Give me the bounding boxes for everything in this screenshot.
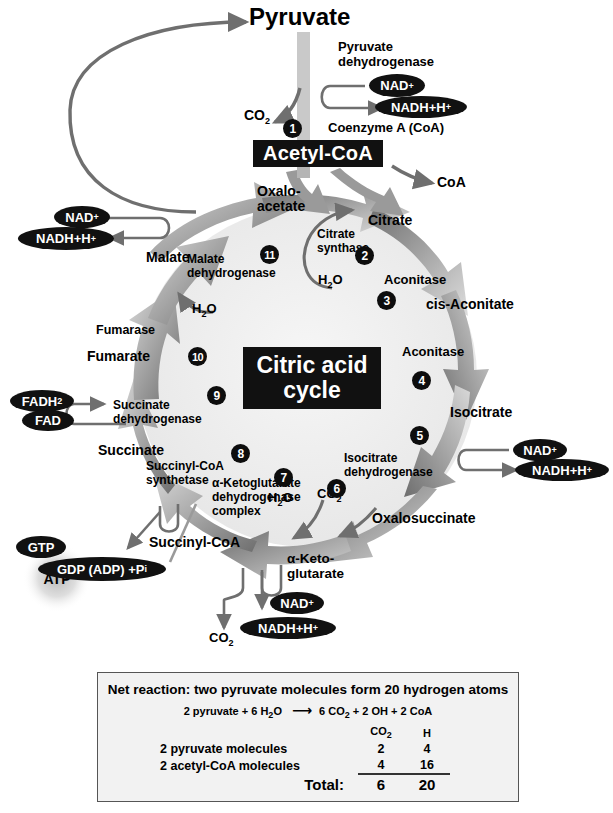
step-10-fumarase[interactable]: 10 xyxy=(188,347,207,366)
chip-nadh-left-text: NADH+H xyxy=(36,231,91,246)
chip-fad-text: FAD xyxy=(35,413,61,428)
net-reaction-box: Net reaction: two pyruvate molecules for… xyxy=(97,672,519,802)
step-9-succinate-dehydrogenase[interactable]: 9 xyxy=(207,386,226,405)
step-6-decarboxylation[interactable]: 6 xyxy=(327,479,346,498)
chip-nadh-top-text: NADH+H xyxy=(391,100,446,115)
label-succinyl-coa-synthetase-1: Succinyl-CoA xyxy=(146,460,224,473)
step-7-number: 7 xyxy=(280,471,286,485)
center-title-plate: Citric acid cycle xyxy=(243,347,381,409)
row-0-name: 2 pyruvate molecules xyxy=(160,741,358,757)
step-9-number: 9 xyxy=(213,389,219,403)
h2o-citrate-o: O xyxy=(332,272,342,287)
step-6-number: 6 xyxy=(333,482,339,496)
chip-nadh-top: NADH+H+ xyxy=(375,96,467,118)
label-malate: Malate xyxy=(146,250,190,265)
chip-nad-bottom-text: NAD xyxy=(280,596,308,611)
chip-fadh2-sub: 2 xyxy=(57,396,62,406)
row-1-name: 2 acetyl-CoA molecules xyxy=(160,757,358,774)
label-coenzyme-a: Coenzyme A (CoA) xyxy=(328,121,444,135)
step-5-number: 5 xyxy=(416,429,422,443)
label-cis-aconitate: cis-Aconitate xyxy=(426,297,514,312)
chip-nadh-left: NADH+H+ xyxy=(18,227,114,250)
step-11-malate-dehydrogenase[interactable]: 11 xyxy=(260,245,279,264)
eq-left-tail: O xyxy=(273,705,282,717)
co2-bottom-sub: 2 xyxy=(229,638,234,648)
h2o-fumarase-h: H xyxy=(192,301,201,316)
label-pyruvate: Pyruvate xyxy=(249,4,350,30)
chip-nadh-left-plus: + xyxy=(91,234,96,244)
label-pyruvate-dehydrogenase-2: dehydrogenase xyxy=(338,55,434,69)
label-succinate-dehydrogenase-1: Succinate xyxy=(113,399,170,412)
step-8-number: 8 xyxy=(237,447,243,461)
net-reaction-table: CO2 H 2 pyruvate molecules 2 4 2 acetyl-… xyxy=(160,724,450,794)
row-1-co2: 4 xyxy=(358,757,404,774)
step-8-succinyl-coa-synthetase[interactable]: 8 xyxy=(231,444,250,463)
header-h: H xyxy=(404,724,450,741)
label-isocitrate-dehydrogenase-1: Isocitrate xyxy=(344,452,397,465)
chip-nadh-right-plus: + xyxy=(587,465,592,475)
step-2-citrate-synthase[interactable]: 2 xyxy=(355,246,374,265)
step-7-akg-dehydrogenase[interactable]: 7 xyxy=(274,468,293,487)
chip-nad-right: NAD+ xyxy=(513,439,567,461)
label-coa-out: CoA xyxy=(437,175,466,190)
chip-nad-left-text: NAD xyxy=(65,210,93,225)
chip-nadh-bottom-text: NADH+H xyxy=(258,621,313,636)
chip-nad-right-text: NAD xyxy=(523,443,551,458)
eq-arrow: ⟶ xyxy=(285,702,319,718)
center-title-line1: Citric acid xyxy=(256,353,367,378)
net-reaction-equation: 2 pyruvate + 6 H2O ⟶6 CO2 + 2 OH + 2 CoA xyxy=(98,702,518,720)
step-10-number: 10 xyxy=(192,351,203,363)
chip-nadh-right: NADH+H+ xyxy=(515,459,609,481)
label-aconitase-b: Aconitase xyxy=(402,345,464,359)
label-pyruvate-dehydrogenase-1: Pyruvate xyxy=(338,40,393,54)
chip-nad-left: NAD+ xyxy=(54,206,110,228)
label-aconitase-a: Aconitase xyxy=(384,273,446,287)
label-alpha-ketoglutarate-2: glutarate xyxy=(287,567,344,582)
table-total-row: Total: 6 20 xyxy=(160,774,450,794)
eq-left: 2 pyruvate + 6 H xyxy=(184,705,269,717)
total-label: Total: xyxy=(160,774,358,794)
chip-fadh2-text: FADH xyxy=(22,394,57,409)
table-header-row: CO2 H xyxy=(160,724,450,741)
label-oxalosuccinate: Oxalosuccinate xyxy=(372,511,476,526)
row-0-co2: 2 xyxy=(358,741,404,757)
label-succinyl-coa: Succinyl-CoA xyxy=(149,535,240,550)
eq-right: 6 CO xyxy=(319,705,345,717)
label-fumarase: Fumarase xyxy=(96,324,155,338)
step-2-number: 2 xyxy=(361,249,367,263)
chip-nad-top-text: NAD xyxy=(380,78,408,93)
step-5-isocitrate-dehydrogenase[interactable]: 5 xyxy=(410,426,429,445)
label-succinyl-coa-synthetase-2: synthetase xyxy=(146,474,209,487)
step-1-number: 1 xyxy=(289,122,295,136)
co2-top-text: CO xyxy=(244,107,265,123)
label-citrate-synthase-1: Citrate xyxy=(317,228,355,241)
label-succinate: Succinate xyxy=(98,443,164,458)
chip-fad: FAD xyxy=(22,410,74,431)
chip-gdp-text: GDP (ADP) +P xyxy=(57,562,145,577)
total-co2: 6 xyxy=(358,774,404,794)
eq-right-tail: + 2 OH + 2 CoA xyxy=(350,705,433,717)
row-0-h: 4 xyxy=(404,741,450,757)
step-4-aconitase[interactable]: 4 xyxy=(412,371,431,390)
label-isocitrate: Isocitrate xyxy=(450,405,512,420)
chip-gdp: GDP (ADP) +Pi xyxy=(38,557,166,581)
center-title-line2: cycle xyxy=(256,378,367,403)
net-reaction-title: Net reaction: two pyruvate molecules for… xyxy=(98,682,518,697)
diagram-canvas: Pyruvate Pyruvate dehydrogenase CO2 Coen… xyxy=(0,0,613,813)
label-succinate-dehydrogenase-2: dehydrogenase xyxy=(113,413,202,426)
step-4-number: 4 xyxy=(418,374,424,388)
label-oxaloacetate-1: Oxalo- xyxy=(257,184,301,199)
label-co2-top: CO2 xyxy=(244,108,270,127)
chip-gtp-text: GTP xyxy=(28,540,55,555)
label-akg-dehydrogenase-3: complex xyxy=(212,505,261,518)
chip-gtp: GTP xyxy=(16,536,66,558)
label-alpha-ketoglutarate-1: α-Keto- xyxy=(287,552,334,567)
chip-nad-left-plus: + xyxy=(93,212,98,222)
step-1-pyruvate-dehydrogenase[interactable]: 1 xyxy=(283,119,302,138)
chip-nadh-bottom-plus: + xyxy=(313,623,318,633)
table-row: 2 acetyl-CoA molecules 4 16 xyxy=(160,757,450,774)
header-co2-text: CO xyxy=(370,725,387,737)
total-h: 20 xyxy=(404,774,450,794)
row-1-h: 16 xyxy=(404,757,450,774)
step-3-aconitase[interactable]: 3 xyxy=(377,291,396,310)
